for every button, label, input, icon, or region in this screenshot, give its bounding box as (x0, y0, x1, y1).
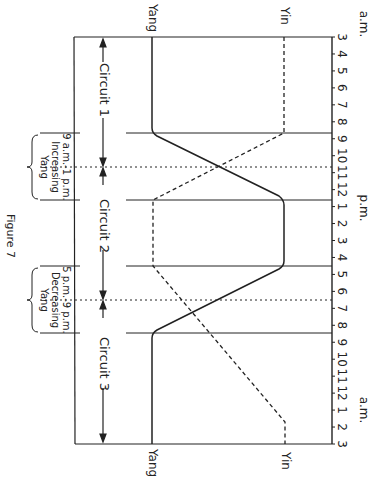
hour-tick-label: 5 (335, 67, 349, 75)
hour-tick-label: 3 (335, 33, 349, 41)
am-period-label-end: a.m. (357, 397, 371, 424)
hour-tick-label: 9 (335, 338, 349, 346)
hour-tick-label: 8 (335, 118, 349, 126)
hour-tick-label: 3 (335, 237, 349, 245)
hour-tick-label: 7 (335, 305, 349, 313)
hour-tick-label: 6 (335, 288, 349, 296)
figure-7-diagram: 3456789101112123456789101112123a.m.p.m.a… (0, 0, 379, 485)
guide-lines (40, 133, 332, 333)
hour-tick-label: 10 (335, 148, 349, 163)
hour-tick-label: 12 (335, 385, 349, 400)
am-period-label: a.m. (357, 11, 371, 38)
chart-frame (74, 37, 332, 444)
hour-tick-label: 3 (335, 440, 349, 448)
hour-tick-label: 4 (335, 50, 349, 58)
hour-tick-label: 7 (335, 101, 349, 109)
yang-line (152, 37, 284, 444)
yin-line (153, 37, 285, 444)
yin-label-top: Yin (278, 6, 292, 25)
yang-label-top: Yang (146, 3, 160, 32)
hour-tick-label: 1 (335, 406, 349, 414)
hour-tick-label: 11 (335, 369, 349, 384)
hour-tick-label: 4 (335, 254, 349, 262)
hour-tick-label: 10 (335, 352, 349, 367)
braces (27, 135, 38, 332)
hour-tick-label: 8 (335, 321, 349, 329)
circuit-1-label: Circuit 1 (97, 63, 112, 117)
yang-label-bottom: Yang (146, 448, 160, 477)
transition-direction: Increasing (50, 141, 61, 193)
hour-tick-label: 1 (335, 203, 349, 211)
transition-direction: Decreasing (50, 272, 61, 328)
figure-caption: Figure 7 (4, 214, 17, 258)
transition-subject: Yang (39, 154, 50, 179)
hour-tick-label: 11 (335, 165, 349, 180)
transition-subject: Yang (39, 287, 50, 312)
transition-range: 5 p.m.-9 p.m. (61, 266, 72, 334)
circuit-2-label: Circuit 2 (97, 199, 112, 253)
circuit-3-label: Circuit 3 (97, 337, 112, 391)
hour-tick-label: 2 (335, 220, 349, 228)
hour-tick-label: 6 (335, 84, 349, 92)
hour-tick-label: 12 (335, 182, 349, 197)
yin-label-bottom: Yin (279, 451, 293, 470)
hour-tick-label: 2 (335, 423, 349, 431)
transition-range: 9 a.m.-1 p.m. (61, 133, 72, 200)
hour-tick-label: 9 (335, 135, 349, 143)
pm-period-label: p.m. (357, 195, 371, 222)
hour-tick-label: 5 (335, 271, 349, 279)
